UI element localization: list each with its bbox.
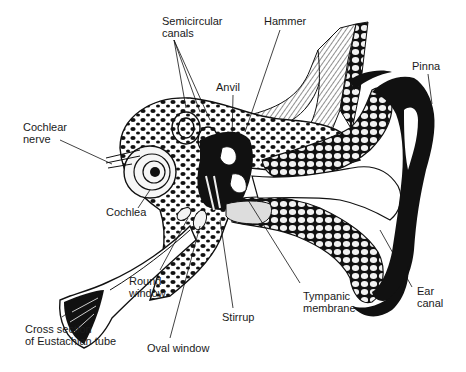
label-cochlea: Cochlea [106,206,146,218]
label-ear-canal: Ear canal [417,285,443,309]
label-round-window: Round window [129,275,166,299]
label-semicircular-canals: Semicircular canals [162,15,223,39]
label-tympanic-membrane: Tympanic membrane [303,290,356,314]
label-cross-section-eustachian-tube: Cross section of Eustachian tube [25,323,116,347]
label-pinna: Pinna [412,60,440,72]
bony-plate [226,201,272,224]
label-hammer: Hammer [264,15,306,27]
label-stirrup: Stirrup [222,311,254,323]
label-anvil: Anvil [216,81,240,93]
label-cochlear-nerve: Cochlear nerve [23,121,67,145]
label-oval-window: Oval window [147,342,209,354]
